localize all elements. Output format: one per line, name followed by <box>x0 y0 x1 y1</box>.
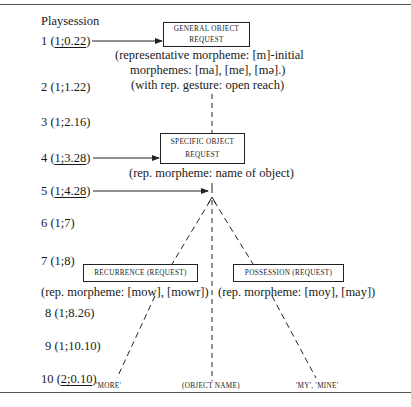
specific-object-request-box: SPECIFIC OBJECT REQUEST <box>160 133 245 164</box>
box-label-line2: REQUEST <box>189 36 223 44</box>
session-age: 2;0.10 <box>61 372 93 386</box>
possession-note: (rep. morpheme: [moy], [may]) <box>218 285 375 299</box>
session-age: 1;8.26 <box>59 306 91 320</box>
session-age: 1;10.10 <box>59 339 97 353</box>
session-number: 1 <box>41 34 47 48</box>
session-number: 2 <box>41 80 47 94</box>
session-age: 1;3.28 <box>55 151 87 165</box>
session-number: 6 <box>41 216 47 230</box>
dashed-recurrence-to-more <box>117 296 155 378</box>
general-note-2: morphemes: [ma], [me], [mə].) <box>130 63 286 77</box>
session-number: 7 <box>41 254 47 268</box>
box-label-line1: GENERAL OBJECT <box>174 25 240 33</box>
dashed-to-recurrence <box>172 201 210 264</box>
dashed-possession-to-mine <box>272 296 316 378</box>
session-age: 1;4.28 <box>55 184 87 198</box>
session-age: 1;0.22 <box>55 34 87 48</box>
session-1: 1 (1;0.22) <box>41 34 90 48</box>
box-label-line1: SPECIFIC OBJECT <box>171 138 234 146</box>
session-4: 4 (1;3.28) <box>41 151 90 165</box>
session-7: 7 (1;8) <box>41 254 75 268</box>
possession-request-box: POSSESSION (REQUEST) <box>233 264 344 282</box>
general-note-1: (representative morpheme: [m]-initial <box>115 48 304 62</box>
session-number: 8 <box>45 306 51 320</box>
session-number: 3 <box>41 115 47 129</box>
outcome-object-name: (OBJECT NAME) <box>182 382 240 390</box>
session-number: 9 <box>45 339 51 353</box>
specific-note: (rep. morpheme: name of object) <box>129 166 294 180</box>
outcome-more: 'MORE' <box>96 382 121 390</box>
session-6: 6 (1;7) <box>41 216 75 230</box>
box-label: RECURRENCE (REQUEST) <box>94 269 186 277</box>
session-number: 4 <box>41 151 47 165</box>
axis-title: Playsession <box>41 14 99 28</box>
box-label-line2: REQUEST <box>185 151 219 159</box>
session-10: 10 (2;0.10) <box>41 372 97 386</box>
recurrence-note: (rep. morpheme: [mow], [mowr]) <box>41 285 209 299</box>
session-number: 10 <box>41 372 54 386</box>
session-2: 2 (1;1.22) <box>41 80 90 94</box>
session-3: 3 (1;2.16) <box>41 115 90 129</box>
recurrence-request-box: RECURRENCE (REQUEST) <box>83 264 198 282</box>
outcome-my-mine: 'MY', 'MINE' <box>296 382 338 390</box>
session-9: 9 (1;10.10) <box>45 339 101 353</box>
session-8: 8 (1;8.26) <box>45 306 94 320</box>
dashed-to-possession <box>214 201 253 264</box>
general-note-3: (with rep. gesture: open reach) <box>131 78 284 92</box>
session-number: 5 <box>41 184 47 198</box>
session-age: 1;7 <box>55 216 71 230</box>
session-age: 1;1.22 <box>55 80 87 94</box>
session-5: 5 (1;4.28) <box>41 184 90 198</box>
session-age: 1;2.16 <box>55 115 87 129</box>
box-label: POSSESSION (REQUEST) <box>245 269 332 277</box>
session-age: 1;8 <box>55 254 71 268</box>
general-object-request-box: GENERAL OBJECT REQUEST <box>163 22 250 47</box>
